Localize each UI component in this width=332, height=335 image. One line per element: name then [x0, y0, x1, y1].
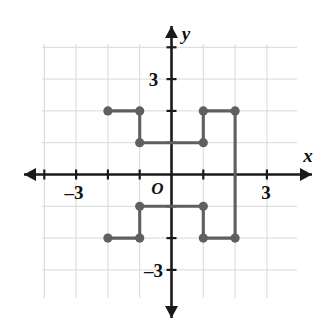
- data-point: [135, 106, 144, 115]
- data-point: [103, 106, 112, 115]
- data-point: [103, 234, 112, 243]
- canvas-background: [0, 0, 332, 335]
- y-tick-label-neg3: –3: [143, 260, 163, 281]
- x-axis-label: x: [302, 145, 313, 166]
- data-point: [199, 106, 208, 115]
- x-tick-label-pos3: 3: [261, 182, 271, 203]
- data-point: [135, 234, 144, 243]
- x-tick-label-neg3: –3: [64, 182, 84, 203]
- origin-label: O: [151, 179, 163, 198]
- data-point: [135, 202, 144, 211]
- data-point: [231, 234, 240, 243]
- y-axis-label: y: [180, 23, 191, 44]
- coordinate-plane-figure: x y O –3 3 3 –3: [0, 0, 332, 335]
- y-tick-label-pos3: 3: [149, 69, 159, 90]
- coordinate-plane-svg: x y O –3 3 3 –3: [0, 0, 332, 335]
- data-point: [231, 106, 240, 115]
- data-point: [199, 234, 208, 243]
- data-point: [135, 138, 144, 147]
- data-point: [199, 202, 208, 211]
- data-point: [199, 138, 208, 147]
